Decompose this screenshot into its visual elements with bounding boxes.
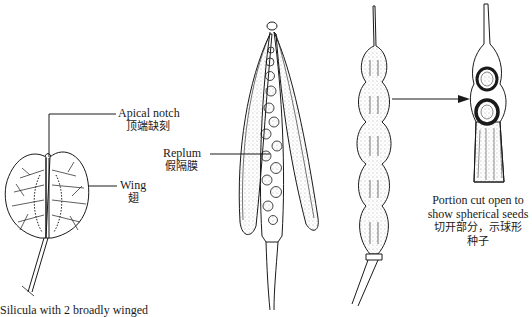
- replum-label-zh: 假隔膜: [163, 160, 201, 174]
- portion-cut-label-en-1: Portion cut open to: [424, 193, 532, 207]
- apical-notch-leader-line: [49, 114, 116, 157]
- siliqua-moniliform-drawing: [352, 6, 391, 306]
- portion-cut-label-zh-2: 种子: [424, 235, 532, 249]
- siliqua-dehiscing-drawing: [239, 22, 318, 310]
- apical-notch-label-en: Apical notch: [118, 106, 180, 120]
- silicula-drawing: [5, 152, 89, 296]
- siliqua-cutaway-drawing: [470, 4, 506, 182]
- apical-notch-label-zh: 顶端缺刻: [118, 120, 180, 134]
- wing-label-zh: 翅: [120, 192, 146, 206]
- arrow-to-cutaway: [392, 95, 470, 103]
- replum-label-en: Replum: [163, 146, 201, 160]
- portion-cut-label-en-2: show spherical seeds: [424, 207, 532, 221]
- portion-cut-label-zh-1: 切开部分，示球形: [424, 221, 532, 235]
- portion-cut-label: Portion cut open to show spherical seeds…: [424, 193, 532, 249]
- apical-notch-label: Apical notch 顶端缺刻: [118, 106, 180, 134]
- silicula-caption-text: Silicula with 2 broadly winged: [0, 303, 148, 317]
- wing-label-en: Wing: [120, 178, 146, 192]
- replum-label: Replum 假隔膜: [163, 146, 201, 174]
- silicula-caption: Silicula with 2 broadly winged: [0, 303, 148, 317]
- wing-label: Wing 翅: [120, 178, 146, 206]
